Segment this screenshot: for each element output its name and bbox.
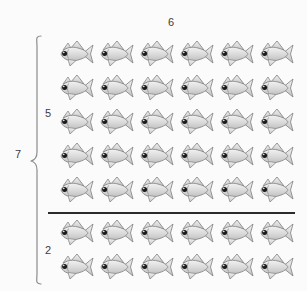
fish-icon — [217, 39, 257, 71]
fish-icon — [97, 39, 137, 71]
fish-icon — [137, 141, 177, 173]
column-count-label: 6 — [162, 16, 180, 28]
fish-row-top — [57, 140, 297, 174]
group-bottom-count-label: 2 — [41, 244, 55, 256]
fish-icon — [57, 252, 97, 284]
fish-icon — [217, 107, 257, 139]
fish-icon — [217, 252, 257, 284]
fish-icon — [137, 252, 177, 284]
clipped-header-text — [0, 0, 307, 12]
fish-icon — [57, 39, 97, 71]
fish-icon — [97, 252, 137, 284]
fish-icon — [97, 73, 137, 105]
fish-icon — [177, 39, 217, 71]
fish-row-bottom — [57, 217, 297, 251]
fish-icon — [177, 73, 217, 105]
fish-icon — [177, 141, 217, 173]
fish-icon — [97, 107, 137, 139]
fish-icon — [57, 107, 97, 139]
fish-row-top — [57, 38, 297, 72]
fish-grid-top — [57, 38, 297, 208]
group-top-count-label: 5 — [41, 107, 55, 119]
fish-icon — [97, 141, 137, 173]
fish-icon — [257, 175, 297, 207]
fish-icon — [177, 252, 217, 284]
fish-icon — [137, 175, 177, 207]
fish-icon — [257, 252, 297, 284]
fish-icon — [137, 39, 177, 71]
fish-icon — [137, 218, 177, 250]
fish-grid-bottom — [57, 217, 297, 285]
fish-icon — [177, 218, 217, 250]
fish-icon — [57, 141, 97, 173]
total-count-label: 7 — [10, 148, 26, 160]
fish-icon — [217, 218, 257, 250]
fish-icon — [217, 73, 257, 105]
fish-icon — [97, 218, 137, 250]
fish-icon — [57, 73, 97, 105]
fish-icon — [217, 141, 257, 173]
fish-icon — [177, 107, 217, 139]
fish-row-top — [57, 72, 297, 106]
fish-icon — [257, 107, 297, 139]
fish-row-top — [57, 106, 297, 140]
fish-icon — [97, 175, 137, 207]
fish-icon — [257, 218, 297, 250]
fish-icon — [137, 73, 177, 105]
fish-row-bottom — [57, 251, 297, 285]
group-divider — [48, 212, 295, 214]
fish-row-top — [57, 174, 297, 208]
diagram-canvas: 6 7 5 2 — [0, 0, 307, 291]
fish-icon — [257, 141, 297, 173]
fish-icon — [57, 218, 97, 250]
fish-icon — [177, 175, 217, 207]
fish-icon — [257, 73, 297, 105]
fish-icon — [57, 175, 97, 207]
fish-icon — [257, 39, 297, 71]
fish-icon — [137, 107, 177, 139]
fish-icon — [217, 175, 257, 207]
